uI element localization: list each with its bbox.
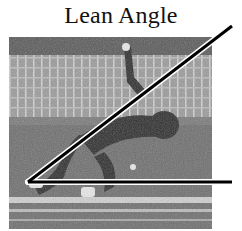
lean-angle-ray-diagonal [28,26,232,182]
angle-lines [28,26,232,182]
lean-angle-annotation [0,0,242,231]
